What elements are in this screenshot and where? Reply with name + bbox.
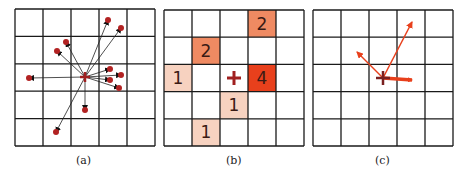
- caption-c: (c): [375, 154, 390, 167]
- dominant-direction-diagram: [0, 0, 467, 173]
